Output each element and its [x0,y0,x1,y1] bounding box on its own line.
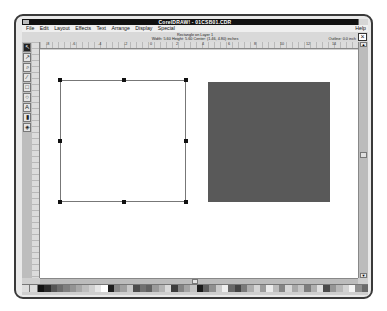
outline-tool-icon[interactable]: ▮ [23,113,31,122]
fill-tool-icon[interactable]: ◈ [23,123,31,132]
ruler-label: 14 [332,42,336,46]
color-swatch[interactable] [362,285,368,292]
no-fill-swatch[interactable] [30,285,38,292]
status-outline: Outline: 0.0 inch [329,37,356,41]
zoom-tool-icon[interactable]: ⌕ [23,63,31,72]
palette-scroll-left-icon[interactable] [22,285,30,292]
filled-rectangle[interactable] [208,82,330,202]
selection-handle[interactable] [122,200,126,204]
ruler-label: 0 [150,42,152,46]
menu-arrange[interactable]: Arrange [111,25,129,32]
selection-handle[interactable] [184,200,188,204]
horizontal-ruler: -8 -6 -4 -2 0 2 4 6 8 10 12 14 [40,42,358,49]
shape-tool-icon[interactable]: ↗ [23,53,31,62]
vertical-scrollbar[interactable]: ▲ ▼ [358,42,368,278]
menu-edit[interactable]: Edit [40,25,49,32]
ruler-label: 12 [306,42,310,46]
menu-special[interactable]: Special [158,25,175,32]
ruler-label: 10 [280,42,284,46]
text-tool-icon[interactable]: A [23,103,31,112]
menu-bar: File Edit Layout Effects Text Arrange Di… [22,25,368,32]
system-menu-button[interactable] [23,20,29,24]
vertical-ruler [32,42,40,278]
menu-effects[interactable]: Effects [75,25,91,32]
ruler-label: 2 [176,42,178,46]
vertical-scroll-thumb[interactable] [360,152,367,158]
ellipse-tool-icon[interactable]: ○ [23,93,31,102]
menu-display[interactable]: Display [135,25,152,32]
ruler-label: 6 [228,42,230,46]
status-dimensions: Width: 5.60 Height: 5.60 Center: (1.46, … [22,37,368,41]
selection-handle[interactable] [58,200,62,204]
ruler-label: -6 [72,42,75,46]
color-palette [22,284,368,292]
menu-file[interactable]: File [26,25,34,32]
ruler-label: 8 [254,42,256,46]
ruler-label: -4 [98,42,101,46]
rectangle-tool-icon[interactable]: □ [23,83,31,92]
selection-handle[interactable] [184,139,188,143]
ruler-label: 4 [202,42,204,46]
scroll-down-arrow-icon[interactable]: ▼ [360,273,367,278]
screen-frame: CorelDRAW! - 01CSB01.CDR File Edit Layou… [14,14,373,299]
selection-handle[interactable] [58,139,62,143]
pencil-tool-icon[interactable]: ∕ [23,73,31,82]
ruler-label: -2 [124,42,127,46]
status-bar: Rectangle on Layer 1 Width: 5.60 Height:… [22,32,368,42]
menu-help[interactable]: Help [355,25,366,32]
scroll-up-arrow-icon[interactable]: ▲ [360,42,367,47]
selection-handle[interactable] [184,78,188,82]
menu-text[interactable]: Text [96,25,106,32]
toolbox: ↖ ↗ ⌕ ∕ □ ○ A ▮ ◈ [22,42,32,278]
selection-handle[interactable] [122,78,126,82]
coreldraw-window: CorelDRAW! - 01CSB01.CDR File Edit Layou… [22,19,368,295]
menu-layout[interactable]: Layout [54,25,70,32]
pick-tool-icon[interactable]: ↖ [23,43,31,52]
selected-rectangle[interactable] [60,80,186,202]
no-outline-x-icon[interactable]: × [358,33,367,41]
ruler-label: -8 [46,42,49,46]
selection-handle[interactable] [58,78,62,82]
